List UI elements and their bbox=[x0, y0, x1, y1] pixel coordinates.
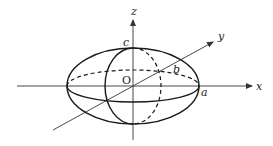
b-label: b bbox=[173, 63, 180, 76]
origin-label: O bbox=[122, 74, 131, 87]
a-label: a bbox=[201, 86, 208, 99]
x-axis-label: x bbox=[256, 80, 263, 93]
z-axis-label: z bbox=[130, 5, 137, 18]
c-label: c bbox=[123, 36, 129, 49]
y-axis-label: y bbox=[217, 30, 225, 43]
ellipsoid-diagram: z x y c b a O bbox=[0, 0, 273, 146]
